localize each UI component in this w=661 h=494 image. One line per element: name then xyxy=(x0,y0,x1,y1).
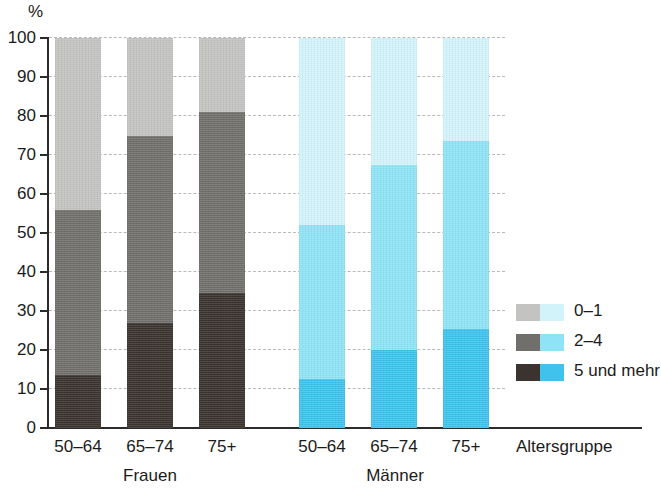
bar-segment xyxy=(371,165,417,350)
bar-männer-50–64 xyxy=(299,38,345,428)
legend-swatch-pair xyxy=(516,304,564,321)
legend-swatch-frauen xyxy=(516,334,540,351)
bar-frauen-75+ xyxy=(199,38,245,428)
x-group-label-frauen: Frauen xyxy=(75,466,225,486)
bar-segment xyxy=(443,38,489,141)
bar-segment xyxy=(55,375,101,428)
legend-label: 0–1 xyxy=(574,301,602,321)
stacked-bar-chart: % 1009080706050403020100 50–64 65–74 75+… xyxy=(0,0,661,494)
bar-segment xyxy=(371,38,417,165)
bar-segment xyxy=(127,323,173,428)
legend-swatch-pair xyxy=(516,364,564,381)
bar-segment xyxy=(55,38,101,210)
legend-swatch-frauen xyxy=(516,364,540,381)
bar-segment xyxy=(199,293,245,428)
bar-frauen-65–74 xyxy=(127,38,173,428)
bar-segment xyxy=(55,210,101,376)
legend-swatch-maenner xyxy=(540,304,564,321)
x-label-frauen-75plus: 75+ xyxy=(177,437,267,457)
legend-label: 5 und mehr xyxy=(574,361,660,381)
bar-segment xyxy=(127,38,173,136)
legend-swatch-maenner xyxy=(540,334,564,351)
bar-segment xyxy=(443,329,489,428)
legend-swatch-pair xyxy=(516,334,564,351)
bar-segment xyxy=(299,225,345,379)
legend-swatch-frauen xyxy=(516,304,540,321)
bar-segment xyxy=(127,136,173,323)
bar-segment xyxy=(299,379,345,428)
plot-area xyxy=(0,0,661,494)
legend-label: 2–4 xyxy=(574,331,602,351)
bar-männer-75+ xyxy=(443,38,489,428)
bar-segment xyxy=(199,112,245,293)
x-group-label-maenner: Männer xyxy=(320,466,470,486)
bar-segment xyxy=(371,350,417,428)
bar-segment xyxy=(299,38,345,225)
x-label-maenner-75plus: 75+ xyxy=(421,437,511,457)
legend-swatch-maenner xyxy=(540,364,564,381)
bar-segment xyxy=(443,141,489,328)
x-axis-title: Altersgruppe xyxy=(516,437,612,457)
bar-männer-65–74 xyxy=(371,38,417,428)
bar-segment xyxy=(199,38,245,112)
bar-frauen-50–64 xyxy=(55,38,101,428)
